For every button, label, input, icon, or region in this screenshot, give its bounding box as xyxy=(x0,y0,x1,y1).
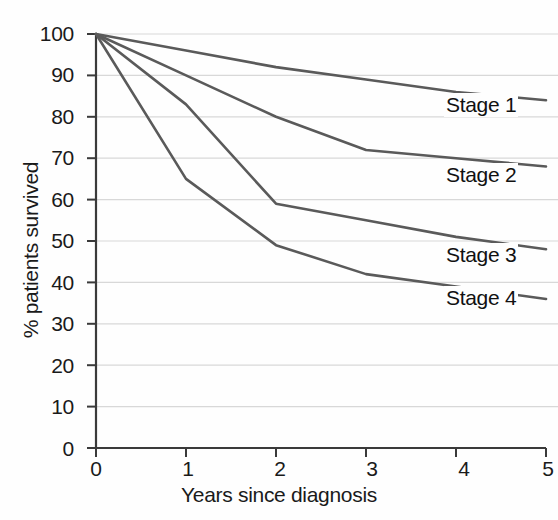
y-tick-label-10: 10 xyxy=(22,395,74,419)
y-axis-title: % patients survived xyxy=(19,140,43,360)
series-label-stage-3: Stage 3 xyxy=(444,243,518,267)
series-label-stage-4: Stage 4 xyxy=(444,286,518,310)
x-axis-title: Years since diagnosis xyxy=(0,483,558,507)
x-tick-label-3: 3 xyxy=(352,457,392,481)
series-label-stage-1: Stage 1 xyxy=(444,93,518,117)
series-line-stage-1 xyxy=(96,34,546,100)
x-tick-label-1: 1 xyxy=(168,457,208,481)
y-tick-label-100: 100 xyxy=(22,22,74,46)
series-label-stage-2: Stage 2 xyxy=(444,163,518,187)
y-tick-label-90: 90 xyxy=(22,63,74,87)
x-tick-label-2: 2 xyxy=(260,457,300,481)
x-tick-label-0: 0 xyxy=(76,457,116,481)
x-tick-label-4: 4 xyxy=(444,457,484,481)
survival-curve-chart: 100 90 80 70 60 50 40 30 20 10 0 0 1 2 3… xyxy=(0,0,558,520)
y-tick-label-80: 80 xyxy=(22,105,74,129)
x-tick-label-5: 5 xyxy=(528,457,558,481)
gridlines xyxy=(96,34,558,407)
y-tick-label-0: 0 xyxy=(22,437,74,461)
